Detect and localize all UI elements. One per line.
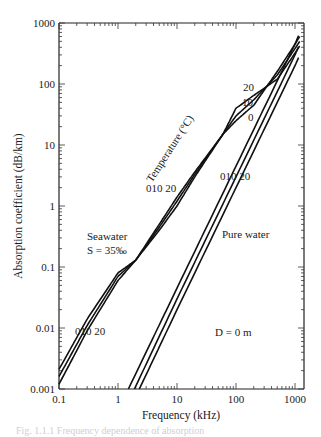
y-axis-title: Absorption coefficient (dB/km) <box>12 133 25 279</box>
y-tick-0.01: 0.01 <box>36 322 55 334</box>
y-tick-0.1: 0.1 <box>41 261 55 273</box>
pure-water-temp-labels: 010 20 <box>220 170 251 182</box>
x-axis-title: Frequency (kHz) <box>142 409 220 422</box>
y-tick-100: 100 <box>39 78 56 90</box>
seawater-high-temp-20: 20 <box>243 81 255 93</box>
pure-water-curve-0c <box>128 36 298 389</box>
y-tick-1000: 1000 <box>33 17 56 29</box>
seawater-label: Seawater <box>87 230 128 242</box>
y-tick-labels: 1000 100 10 1 0.1 0.01 0.001 <box>30 17 55 395</box>
x-tick-100: 100 <box>228 393 245 405</box>
x-tick-10: 10 <box>172 393 184 405</box>
seawater-high-temp-10: 10 <box>242 96 254 108</box>
figure-caption: Fig. 1.1.1 Frequency dependence of absor… <box>16 425 204 436</box>
absorption-chart: 1000 100 10 1 0.1 0.01 0.001 0.1 1 10 10… <box>0 0 321 437</box>
y-tick-10: 10 <box>44 139 56 151</box>
seawater-curve-20c <box>59 46 300 369</box>
depth-label: D = 0 m <box>215 326 252 338</box>
pure-water-label: Pure water <box>222 228 270 240</box>
salinity-label: S = 35‰ <box>87 244 127 256</box>
x-tick-1000: 1000 <box>284 393 307 405</box>
temperature-label: Temperature (°C) <box>144 112 197 184</box>
y-tick-1: 1 <box>50 200 56 212</box>
pure-water-curve-20c <box>139 58 298 389</box>
x-tick-labels: 0.1 1 10 100 1000 <box>52 393 306 405</box>
seawater-mid-temp-labels: 010 20 <box>146 182 177 194</box>
x-tick-1: 1 <box>115 393 121 405</box>
x-tick-0.1: 0.1 <box>52 393 66 405</box>
seawater-high-temp-0: 0 <box>248 111 254 123</box>
seawater-low-temp-labels: 010 20 <box>75 325 106 337</box>
